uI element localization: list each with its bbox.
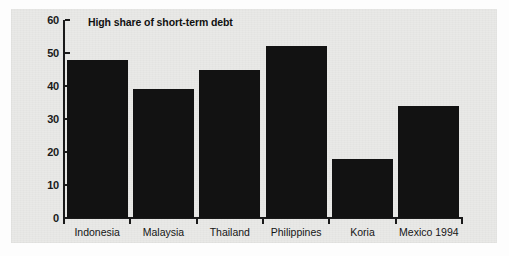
x-axis-tick	[63, 219, 65, 224]
x-axis-category-label: Koria	[329, 226, 395, 239]
x-axis-category-label: Indonesia	[64, 226, 130, 239]
bar	[67, 60, 128, 218]
plot-area	[64, 20, 462, 218]
x-axis-category-label: Thailand	[197, 226, 263, 239]
x-axis-tick	[395, 219, 397, 224]
y-axis-tick-label: 60	[13, 15, 59, 26]
x-axis-category-label: Philippines	[263, 226, 329, 239]
bar	[332, 159, 393, 218]
x-axis-tick	[461, 219, 463, 224]
x-axis-tick	[129, 219, 131, 224]
y-axis-tick-label: 20	[13, 147, 59, 158]
y-axis-tick-label: 50	[13, 48, 59, 59]
chart-title: High share of short-term debt	[88, 16, 233, 28]
bar	[398, 106, 459, 218]
x-axis-category-label: Malaysia	[130, 226, 196, 239]
x-axis-tick	[196, 219, 198, 224]
x-axis-tick	[262, 219, 264, 224]
chart-figure-panel: 0102030405060 High share of short-term d…	[11, 9, 497, 243]
y-axis-tick-label: 40	[13, 81, 59, 92]
x-axis-category-label: Mexico 1994	[396, 226, 462, 239]
bar	[199, 70, 260, 219]
y-axis-tick-label: 10	[13, 180, 59, 191]
x-axis-category-labels: IndonesiaMalaysiaThailandPhilippinesKori…	[64, 226, 462, 242]
bar	[266, 46, 327, 218]
y-axis-tick-labels: 0102030405060	[11, 9, 59, 238]
y-axis-tick-label: 30	[13, 114, 59, 125]
scanned-page: 0102030405060 High share of short-term d…	[0, 0, 509, 256]
bar	[133, 89, 194, 218]
y-axis-tick-label: 0	[13, 213, 59, 224]
x-axis-tick	[328, 219, 330, 224]
